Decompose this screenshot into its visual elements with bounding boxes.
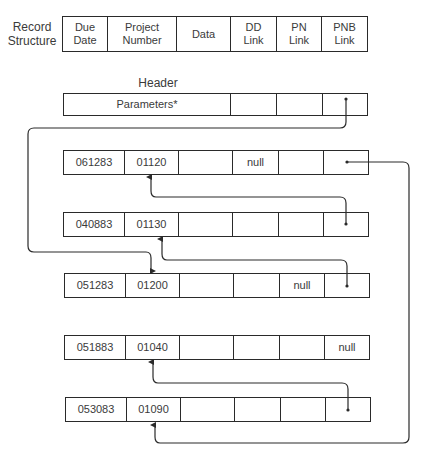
link-061283-to-053083 — [155, 162, 409, 443]
pointer-dot — [345, 284, 348, 287]
link-arrows — [0, 0, 424, 463]
pointer-dot — [344, 97, 347, 100]
pointer-dot — [346, 408, 349, 411]
link-053083-to-051883 — [153, 362, 348, 410]
pointer-dot — [345, 160, 348, 163]
link-051283-to-040883 — [162, 239, 347, 286]
link-header-to-051283 — [28, 99, 346, 271]
pointer-dot — [344, 222, 347, 225]
link-040883-to-061283 — [151, 177, 346, 224]
